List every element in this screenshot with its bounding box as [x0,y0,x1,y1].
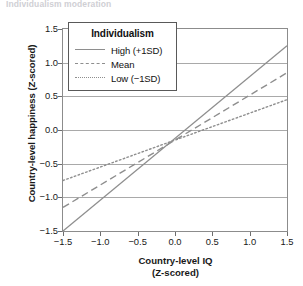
legend-line-swatch-dashed [75,59,105,69]
x-tick-mark [100,232,101,236]
y-tick-label: 1.0 [16,57,58,68]
x-tick-label: 0.5 [192,236,232,247]
x-tick-label: 0.0 [155,236,195,247]
y-tick-label: 0.0 [16,124,58,135]
x-tick-label: 1.0 [230,236,270,247]
x-axis-title: Country-level IQ (Z-scored) [62,255,289,278]
x-tick-label: −1.5 [43,236,83,247]
y-tick-label: −1.5 [16,225,58,236]
legend-line-swatch-solid [75,45,105,55]
x-tick-label: −1.0 [80,236,120,247]
x-tick-mark [250,232,251,236]
x-tick-mark [287,232,288,236]
x-axis-title-line1: Country-level IQ [62,255,289,267]
legend-item: Mean [75,57,170,71]
x-tick-mark [138,232,139,236]
y-tick-label: 0.5 [16,90,58,101]
legend-items: High (+1SD)MeanLow (−1SD) [75,43,170,85]
x-tick-mark [175,232,176,236]
legend: Individualism High (+1SD)MeanLow (−1SD) [68,22,177,91]
x-tick-mark [212,232,213,236]
y-tick-label: 1.5 [16,23,58,34]
regression-line [63,100,287,181]
legend-item: High (+1SD) [75,43,170,57]
x-tick-label: 1.5 [267,236,303,247]
legend-line-swatch-dotted [75,73,105,83]
clipped-caption-fragment: Individualism moderation [6,0,236,7]
chart-figure: Individualism moderation Country-level h… [0,0,303,286]
y-tick-label: −0.5 [16,158,58,169]
legend-item-label: Low (−1SD) [111,73,160,84]
legend-item-label: Mean [111,59,134,70]
legend-item: Low (−1SD) [75,71,170,85]
regression-line [63,73,287,208]
x-tick-mark [63,232,64,236]
y-tick-label: −1.0 [16,191,58,202]
legend-item-label: High (+1SD) [111,45,162,56]
x-tick-label: −0.5 [118,236,158,247]
x-axis-title-line2: (Z-scored) [62,267,289,279]
legend-title: Individualism [75,28,170,39]
